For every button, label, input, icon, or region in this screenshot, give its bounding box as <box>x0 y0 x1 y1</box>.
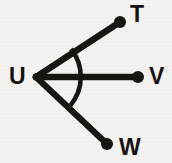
endpoint-dot-t <box>114 16 126 28</box>
point-label-u: U <box>9 65 26 88</box>
point-label-v: V <box>149 65 164 88</box>
point-label-w: W <box>119 136 141 159</box>
endpoint-dot-v <box>132 71 144 83</box>
angle-figure: T V W U <box>0 0 172 163</box>
vertex-u-dot <box>33 74 40 81</box>
endpoint-dot-w <box>101 138 113 150</box>
angle-diagram-canvas <box>0 0 172 163</box>
point-label-t: T <box>130 3 144 26</box>
ray-uw-line <box>36 77 107 144</box>
